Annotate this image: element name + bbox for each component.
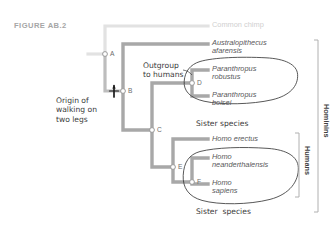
taxon-label-paranthropus-robustus: Paranthropus robustus <box>212 65 256 82</box>
bipedalism-tick-icon <box>110 86 119 98</box>
group-label-humans: Humans <box>303 146 311 175</box>
node-marker-d <box>190 81 195 86</box>
figure-canvas: FIGURE AB.2 Common chimp Australopithecu… <box>0 0 332 226</box>
annotation-outgroup-to-humans: Outgroup to humans <box>143 61 183 80</box>
node-marker-e <box>171 165 176 170</box>
node-label-a: A <box>110 50 114 57</box>
taxon-label-homo-sapiens: Homo sapiens <box>212 179 237 196</box>
node-label-e: E <box>178 163 182 170</box>
node-marker-c <box>150 128 155 133</box>
node-marker-f <box>190 180 195 185</box>
node-marker-b <box>121 89 126 94</box>
figure-number: FIGURE AB.2 <box>14 22 67 31</box>
annotation-sister-species-homo: Sister species <box>196 207 251 216</box>
taxon-label-common-chimp: Common chimp <box>212 21 264 29</box>
branch-a-to-b <box>105 54 121 91</box>
taxon-label-homo-erectus: Homo erectus <box>212 135 258 143</box>
node-label-f: F <box>197 178 201 185</box>
branch-chimp <box>105 26 208 54</box>
cladogram-svg <box>0 0 332 226</box>
taxon-label-australopithecus-afarensis: Australopithecus afarensis <box>212 39 267 56</box>
annotation-sister-species-paranthropus: Sister species <box>196 119 248 128</box>
bracket-hominins <box>314 40 318 212</box>
node-label-d: D <box>197 79 202 86</box>
node-label-c: C <box>157 126 162 133</box>
taxon-label-paranthropus-boisei: Paranthropus boisei <box>212 91 256 108</box>
branch-c-to-e <box>152 130 171 167</box>
node-label-b: B <box>128 87 132 94</box>
annotation-origin-of-bipedalism: Origin of walking on two legs <box>56 96 97 124</box>
node-marker-a <box>103 52 108 57</box>
branch-b-to-c <box>123 91 150 130</box>
taxon-label-homo-neanderthalensis: Homo neanderthalensis <box>212 153 268 170</box>
group-label-hominins: Hominins <box>322 104 330 138</box>
branch-c-to-d <box>152 83 190 130</box>
